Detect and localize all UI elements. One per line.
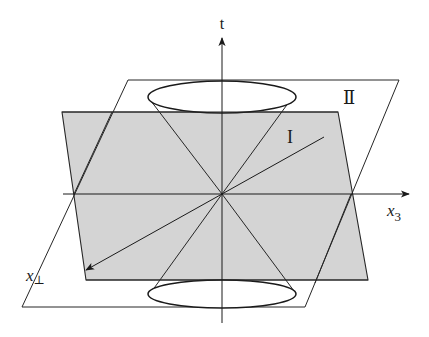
x3-axis-label: x3 <box>386 201 401 224</box>
x3-axis-label-subscript: 3 <box>395 209 402 224</box>
t-axis-label: t <box>220 15 225 32</box>
region-I-label: I <box>287 127 293 147</box>
plane-I <box>62 112 368 280</box>
x-perp-axis-label-subscript: ⊥ <box>34 273 45 287</box>
light-cone-diagram: t x3 x⊥ I Ⅱ <box>0 0 429 337</box>
x-perp-axis-label: x⊥ <box>25 266 45 287</box>
region-II-label: Ⅱ <box>343 88 355 108</box>
